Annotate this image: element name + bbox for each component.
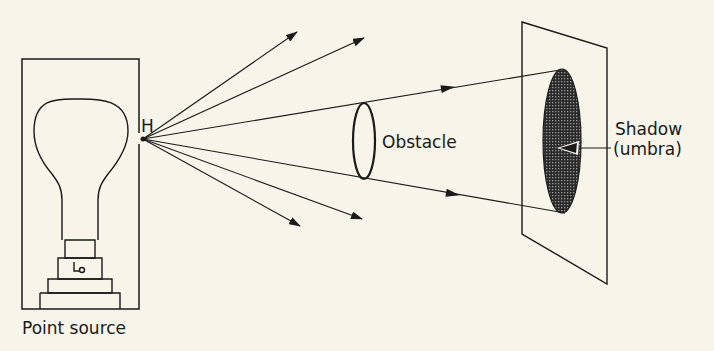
upper-tangent-ray (143, 70, 560, 139)
umbra-label: (umbra) (613, 139, 682, 159)
ray-arrow-2 (143, 38, 364, 139)
ray-arrow-4 (143, 139, 362, 219)
point-source-label: Point source (22, 318, 126, 338)
ray-arrow-1 (143, 32, 297, 139)
diagram-canvas (0, 0, 714, 351)
ray-arrow-3 (143, 139, 300, 226)
shadow-label: Shadow (615, 119, 682, 139)
source-point-icon (141, 137, 146, 142)
obstacle-label: Obstacle (382, 132, 457, 152)
shadow-umbra (543, 69, 581, 213)
obstacle-disc (353, 103, 375, 179)
light-bulb-icon (34, 99, 128, 309)
source-label-h: H (141, 116, 154, 136)
